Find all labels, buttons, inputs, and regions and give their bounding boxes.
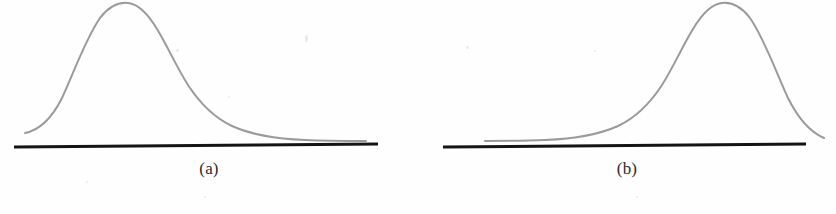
panel-left-skewed: (b): [418, 0, 836, 214]
panel-right-skewed: (a): [0, 0, 418, 214]
distribution-curve-a: [25, 3, 366, 141]
figure-root: (a) (b): [0, 0, 836, 214]
distribution-curve-b: [485, 3, 824, 141]
baseline-axis-a: [14, 144, 378, 147]
right-skewed-curve-chart: [0, 0, 418, 160]
baseline-axis-b: [443, 144, 806, 147]
panel-caption-b: (b): [418, 158, 836, 180]
left-skewed-curve-chart: [418, 0, 836, 160]
